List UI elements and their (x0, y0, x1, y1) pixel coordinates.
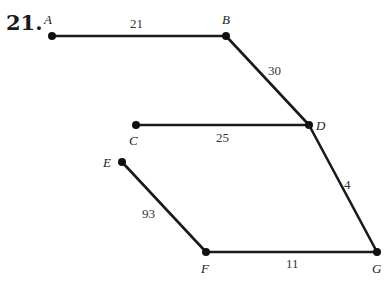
node-g-dot (373, 248, 381, 256)
node-e-dot (118, 158, 126, 166)
node-label-b: B (222, 12, 230, 27)
node-label-g: G (372, 261, 382, 276)
graph-nodes (48, 32, 381, 256)
node-label-c: C (129, 133, 138, 148)
node-c-dot (132, 121, 140, 129)
node-d-dot (305, 121, 313, 129)
graph-edges (52, 36, 377, 252)
weighted-graph-diagram: 21. 21302549311 ABCDEFG (0, 0, 384, 289)
node-labels: ABCDEFG (43, 12, 382, 276)
edge-weight-label: 25 (216, 130, 229, 145)
edge-weight-label: 30 (268, 63, 281, 78)
edge-weight-label: 4 (344, 177, 351, 192)
node-label-e: E (102, 155, 111, 170)
edge-b-d (226, 36, 309, 125)
edge-weight-label: 21 (130, 16, 143, 31)
node-label-a: A (43, 12, 52, 27)
edge-weight-label: 93 (142, 206, 155, 221)
node-label-d: D (315, 118, 326, 133)
edge-d-g (309, 125, 377, 252)
edge-weight-label: 11 (286, 256, 299, 271)
node-label-f: F (200, 261, 210, 276)
node-f-dot (202, 248, 210, 256)
problem-number: 21. (6, 10, 43, 35)
edge-e-f (122, 162, 206, 252)
node-a-dot (48, 32, 56, 40)
node-b-dot (222, 32, 230, 40)
